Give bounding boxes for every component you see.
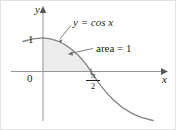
x-axis-label: x <box>162 74 167 85</box>
curve-label-leader-line <box>60 26 72 40</box>
shaded-area-region <box>43 38 91 72</box>
origin-label: 0 <box>27 73 33 84</box>
x-axis-tick-label-pi-over-two: π 2 <box>86 71 100 92</box>
curve-equation-label: y = cos x <box>73 17 113 28</box>
y-axis-tick-label-one: 1 <box>28 34 34 45</box>
cosine-area-figure: y = cos x area = 1 1 0 y x π 2 <box>0 0 176 130</box>
area-annotation-label: area = 1 <box>96 43 132 54</box>
pi-numerator: π <box>86 71 100 81</box>
y-axis-arrowhead <box>40 6 47 13</box>
y-axis-label: y <box>35 4 40 15</box>
pi-denominator: 2 <box>86 81 100 91</box>
